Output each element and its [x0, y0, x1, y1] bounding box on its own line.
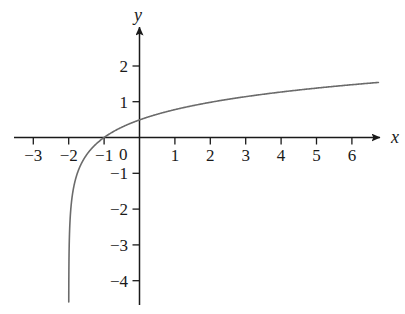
x-tick-label-2: 2 — [206, 147, 215, 164]
origin-label: 0 — [119, 146, 128, 163]
x-axis-label: x — [391, 128, 399, 146]
x-tick-label-6: 6 — [348, 147, 357, 164]
y-tick-label--3: −3 — [110, 236, 128, 253]
y-tick-label--2: −2 — [110, 201, 128, 218]
log-curve — [69, 82, 379, 302]
y-axis-ticks — [133, 66, 140, 281]
y-tick-label-2: 2 — [120, 58, 129, 75]
x-axis-ticks — [33, 138, 352, 145]
y-tick-label-1: 1 — [120, 93, 129, 110]
y-tick-label--4: −4 — [110, 272, 128, 289]
y-axis-label: y — [134, 6, 142, 24]
x-tick-label-4: 4 — [277, 147, 286, 164]
x-tick-label-1: 1 — [171, 147, 180, 164]
x-tick-label--3: −3 — [24, 147, 42, 164]
x-tick-label-3: 3 — [241, 147, 250, 164]
chart-figure: −3 −2 −1 1 2 3 4 5 6 2 1 −1 −2 −3 −4 0 y… — [0, 0, 405, 314]
x-tick-label--1: −1 — [95, 147, 113, 164]
x-tick-label--2: −2 — [60, 147, 78, 164]
x-tick-label-5: 5 — [312, 147, 321, 164]
y-tick-label--1: −1 — [110, 165, 128, 182]
